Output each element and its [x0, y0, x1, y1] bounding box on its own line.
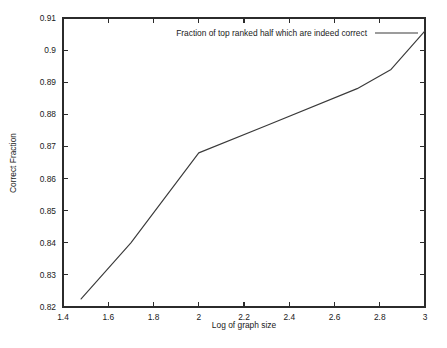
x-axis-ticks: 1.41.61.822.22.42.62.83 — [57, 18, 427, 322]
y-tick-label: 0.88 — [40, 109, 57, 119]
x-tick-label: 2 — [196, 312, 201, 322]
y-axis-title: Correct Fraction — [8, 133, 18, 193]
y-tick-label: 0.86 — [40, 174, 57, 184]
x-axis-title: Log of graph size — [212, 320, 277, 330]
y-tick-label: 0.84 — [40, 238, 57, 248]
y-tick-label: 0.83 — [40, 270, 57, 280]
legend-label: Fraction of top ranked half which are in… — [176, 28, 368, 38]
x-tick-label: 2.6 — [329, 312, 341, 322]
x-tick-label: 2.8 — [374, 312, 386, 322]
line-chart: 0.820.830.840.850.860.870.880.890.90.91 … — [0, 0, 447, 348]
legend: Fraction of top ranked half which are in… — [176, 28, 418, 38]
x-tick-label: 3 — [423, 312, 428, 322]
y-axis-ticks: 0.820.830.840.850.860.870.880.890.90.91 — [40, 13, 425, 312]
plot-frame — [63, 18, 425, 307]
x-tick-label: 1.6 — [102, 312, 114, 322]
data-series-line — [81, 31, 425, 299]
x-tick-label: 2.4 — [283, 312, 295, 322]
chart-container: 0.820.830.840.850.860.870.880.890.90.91 … — [0, 0, 447, 348]
x-tick-label: 1.4 — [57, 312, 69, 322]
y-tick-label: 0.89 — [40, 77, 57, 87]
y-tick-label: 0.85 — [40, 206, 57, 216]
y-tick-label: 0.87 — [40, 141, 57, 151]
x-tick-label: 1.8 — [148, 312, 160, 322]
y-tick-label: 0.9 — [44, 45, 56, 55]
y-tick-label: 0.82 — [40, 302, 57, 312]
y-tick-label: 0.91 — [40, 13, 57, 23]
